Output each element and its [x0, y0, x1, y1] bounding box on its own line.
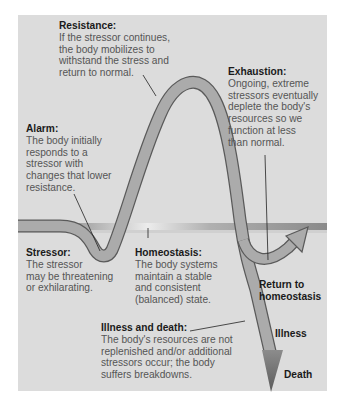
- label-exhaustion: Exhaustion: Ongoing, extreme stressors e…: [228, 66, 318, 149]
- outcome-return: Return to homeostasis: [259, 279, 321, 303]
- label-homeostasis: Homeostasis: The body systems maintain a…: [135, 247, 218, 306]
- decline-arrow: [262, 350, 283, 392]
- label-stressor: Stressor: The stressor may be threatenin…: [26, 247, 113, 294]
- label-resistance: Resistance: If the stressor continues, t…: [59, 20, 170, 79]
- outcome-death: Death: [284, 369, 312, 381]
- label-alarm: Alarm: The body initially responds to a …: [26, 123, 112, 194]
- outcome-illness: Illness: [275, 328, 307, 340]
- label-illness-death: Illness and death: The body's resources …: [101, 322, 233, 381]
